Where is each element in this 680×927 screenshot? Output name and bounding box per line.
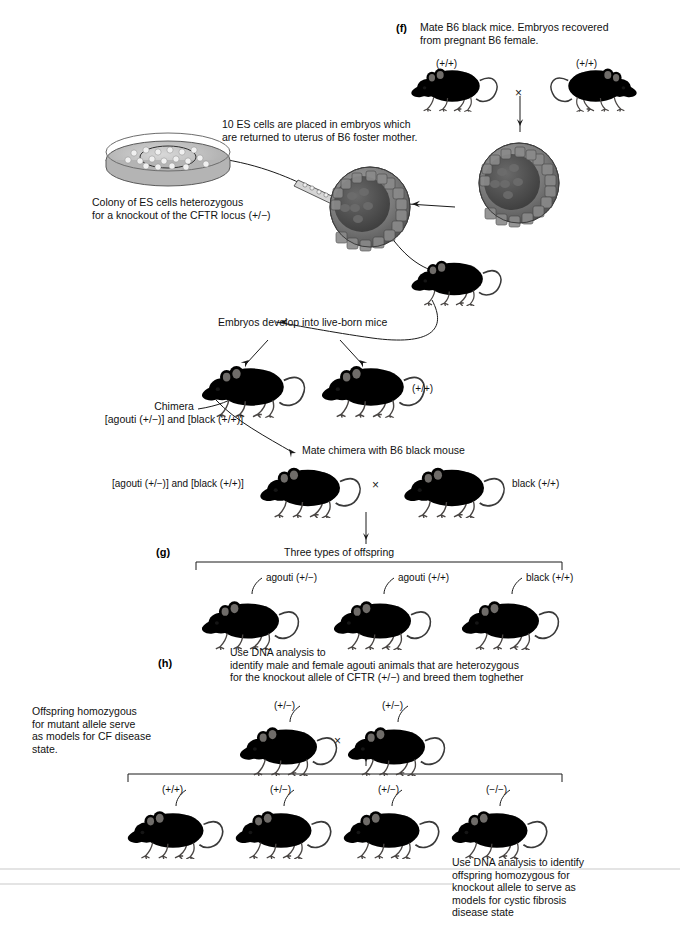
caption-mate-chimera: Mate chimera with B6 black mouse bbox=[302, 444, 532, 457]
mouse-agouti-icon bbox=[330, 592, 434, 650]
mouse-agouti-icon bbox=[340, 802, 442, 859]
mouse-agouti-icon bbox=[256, 458, 364, 518]
mouse-agouti-icon bbox=[344, 718, 448, 776]
caption-offspring-homozygous: Offspring homozygous for mutant allele s… bbox=[32, 705, 212, 755]
petri-dish-icon bbox=[106, 133, 230, 186]
cross-symbol-f: × bbox=[515, 86, 522, 100]
mouse-agouti-icon bbox=[124, 802, 226, 859]
blastocyst-injected-icon bbox=[330, 167, 410, 251]
caption-es-cells-placed: 10 ES cells are placed in embryos which … bbox=[222, 118, 472, 143]
step-label-f: (f) bbox=[396, 22, 407, 34]
offspring-label-1: agouti (+/−) bbox=[266, 572, 317, 584]
caption-colony: Colony of ES cells heterozygous for a kn… bbox=[92, 196, 332, 221]
caption-mate-b6: Mate B6 black mice. Embryos recovered fr… bbox=[420, 21, 670, 46]
final-offspring-label-1: (+/+) bbox=[162, 784, 183, 796]
step-label-g: (g) bbox=[156, 546, 170, 558]
mouse-black-icon bbox=[400, 458, 508, 518]
blastocyst-donor-icon bbox=[479, 143, 559, 227]
offspring-label-2: agouti (+/+) bbox=[398, 572, 449, 584]
final-offspring-label-4: (−/−) bbox=[486, 784, 507, 796]
final-offspring-label-2: (+/−) bbox=[270, 784, 291, 796]
figure-canvas: (f) Mate B6 black mice. Embryos recovere… bbox=[0, 0, 680, 927]
caption-dna-analysis-final: Use DNA analysis to identify offspring h… bbox=[452, 856, 672, 919]
cross-symbol-chimera: × bbox=[372, 478, 379, 492]
mouse-black-icon bbox=[408, 252, 504, 306]
genotype-liveborn-black: (+/+) bbox=[412, 383, 433, 395]
caption-embryos-develop: Embryos develop into live-born mice bbox=[218, 316, 468, 329]
mouse-black-icon bbox=[458, 592, 562, 650]
caption-chimera: Chimera [agouti (+/−)] and [black (+/+)] bbox=[64, 400, 284, 425]
mouse-agouti-icon bbox=[448, 802, 550, 859]
mouse-agouti-icon bbox=[236, 718, 340, 776]
mouse-agouti-icon bbox=[198, 592, 302, 650]
het-cross-label-1: (+/−) bbox=[274, 700, 295, 712]
genotype-parent-female: (+/+) bbox=[576, 58, 597, 70]
label-b6-black-mate: black (+/+) bbox=[512, 478, 559, 490]
label-chimera-genotypes: [agouti (+/−)] and [black (+/+)] bbox=[112, 478, 244, 490]
cross-symbol-h: × bbox=[334, 734, 341, 748]
genotype-parent-male: (+/+) bbox=[436, 58, 457, 70]
step-label-h: (h) bbox=[158, 657, 172, 669]
caption-three-types: Three types of offspring bbox=[284, 546, 464, 559]
final-offspring-label-3: (+/−) bbox=[378, 784, 399, 796]
het-cross-label-2: (+/−) bbox=[382, 700, 403, 712]
offspring-label-3: black (+/+) bbox=[526, 572, 573, 584]
mouse-agouti-icon bbox=[232, 802, 334, 859]
caption-dna-analysis-h: Use DNA analysis to identify male and fe… bbox=[230, 646, 630, 684]
